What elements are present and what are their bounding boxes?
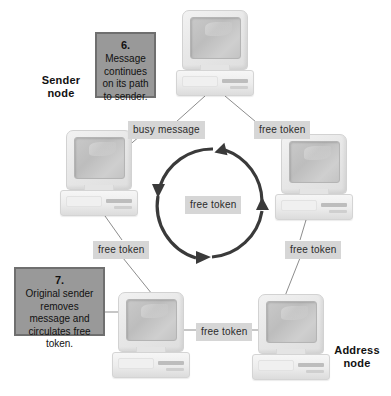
case-vent — [66, 196, 102, 207]
computer-case — [176, 70, 254, 96]
ring-arc-bottom-right — [212, 211, 262, 257]
chip-free-token-bottom: free token — [196, 323, 252, 341]
diagram-canvas: busy message free token free token free … — [0, 0, 391, 396]
drive-slot — [321, 203, 347, 207]
monitor — [118, 292, 184, 352]
screen-glint — [205, 22, 232, 36]
arrowhead-top — [213, 143, 228, 159]
drive-slot — [222, 79, 248, 83]
screen — [266, 301, 317, 343]
caption-sender-node: Sender node — [32, 74, 90, 100]
node-left-sender — [60, 130, 136, 216]
drive-slot-secondary — [230, 86, 248, 89]
ring-arc-top-left — [160, 149, 213, 186]
case-vent — [258, 360, 294, 371]
step-number: 6. — [100, 38, 151, 52]
screen — [126, 299, 177, 341]
caption-line-1: Sender — [32, 74, 90, 87]
computer-case — [112, 352, 190, 378]
computer-case — [60, 190, 138, 216]
screen-glint — [141, 304, 168, 318]
drive-slot-secondary — [166, 368, 184, 371]
screen-glint — [304, 146, 331, 160]
drive-slot-secondary — [114, 206, 132, 209]
screen — [74, 137, 125, 179]
caption-address-node: Address node — [328, 344, 386, 370]
screen — [289, 141, 340, 183]
step-number: 7. — [19, 273, 100, 287]
ring-arc-top-right — [225, 150, 262, 201]
node-right — [275, 134, 351, 220]
arrowhead-left — [152, 184, 165, 198]
case-vent — [281, 200, 317, 211]
chip-free-token-left: free token — [93, 241, 149, 259]
drive-slot-secondary — [306, 370, 324, 373]
monitor — [182, 10, 248, 70]
drive-slot-secondary — [329, 210, 347, 213]
case-vent — [118, 358, 154, 369]
computer-case — [252, 354, 330, 380]
monitor — [66, 130, 132, 190]
chip-busy-message: busy message — [128, 121, 205, 139]
chip-free-token-right: free token — [285, 241, 341, 259]
drive-slot — [106, 199, 132, 203]
node-bottom-right-address — [252, 294, 328, 380]
step-box-6: 6. Message continues on its path to send… — [95, 32, 156, 98]
drive-slot — [158, 361, 184, 365]
arrowhead-right — [256, 197, 269, 210]
step-text: Message continues on its path to sender. — [102, 53, 148, 102]
chip-free-token-center: free token — [185, 196, 241, 214]
node-bottom-left — [112, 292, 188, 378]
caption-line-1: Address — [328, 344, 386, 357]
node-top — [176, 10, 252, 96]
screen — [190, 17, 241, 59]
arrowhead-bottom — [196, 251, 211, 264]
caption-line-2: node — [328, 357, 386, 370]
screen-glint — [89, 142, 116, 156]
monitor — [281, 134, 347, 194]
step-box-7: 7. Original sender removes message and c… — [14, 267, 105, 336]
computer-case — [275, 194, 353, 220]
caption-line-2: node — [32, 87, 90, 100]
chip-free-token-top-right: free token — [254, 121, 310, 139]
case-vent — [182, 76, 218, 87]
step-text: Original sender removes message and circ… — [26, 288, 94, 349]
screen-glint — [281, 306, 308, 320]
monitor — [258, 294, 324, 354]
drive-slot — [298, 363, 324, 367]
